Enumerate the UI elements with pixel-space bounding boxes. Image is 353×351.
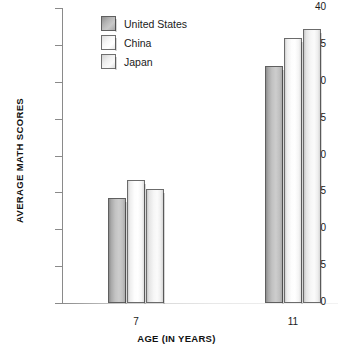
legend: United States China Japan — [101, 14, 187, 71]
y-tick-5 — [55, 266, 62, 267]
bar-china-age-7 — [127, 180, 145, 303]
x-category-label-11: 11 — [263, 316, 323, 327]
legend-item-china: China — [101, 33, 187, 52]
legend-swatch-united-states-icon — [101, 16, 116, 31]
y-axis-line — [62, 8, 63, 304]
legend-item-japan: Japan — [101, 52, 187, 71]
bar-japan-age-7 — [146, 189, 164, 303]
bar-japan-age-11 — [303, 29, 321, 303]
bar-china-age-11 — [284, 38, 302, 304]
y-tick-0 — [55, 303, 62, 304]
y-tick-25 — [55, 119, 62, 120]
y-tick-label-40: 40 — [292, 1, 326, 12]
y-axis-title: AVERAGE MATH SCORES — [14, 66, 25, 256]
bar-united-states-age-7 — [108, 198, 126, 304]
legend-item-united-states: United States — [101, 14, 187, 33]
y-tick-15 — [55, 192, 62, 193]
legend-label-united-states: United States — [124, 18, 187, 30]
y-tick-20 — [55, 156, 62, 157]
y-tick-30 — [55, 82, 62, 83]
y-tick-35 — [55, 45, 62, 46]
bar-chart: AVERAGE MATH SCORES 0 5 10 15 20 25 30 3… — [0, 0, 353, 351]
legend-swatch-china-icon — [101, 35, 116, 50]
legend-label-japan: Japan — [124, 56, 153, 68]
y-tick-10 — [55, 229, 62, 230]
x-category-label-7: 7 — [106, 316, 166, 327]
bar-united-states-age-11 — [265, 66, 283, 304]
legend-label-china: China — [124, 37, 151, 49]
legend-swatch-japan-icon — [101, 54, 116, 69]
x-axis-title: AGE (IN YEARS) — [0, 333, 353, 344]
y-tick-40 — [55, 8, 62, 9]
